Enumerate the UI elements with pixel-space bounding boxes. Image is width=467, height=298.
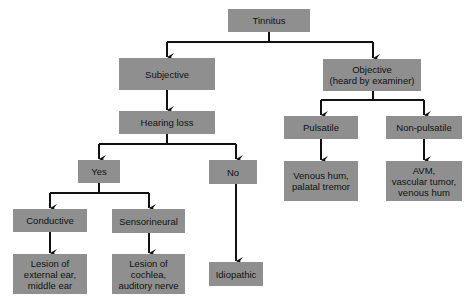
node-yes: Yes [78,160,120,183]
node-idiopathic: Idiopathic [209,262,263,286]
node-conductive-lesion: Lesion of external ear, middle ear [13,254,87,294]
node-sensorineural: Sensorineural [112,209,185,233]
node-tinnitus: Tinnitus [228,9,310,32]
node-non-pulsatile-causes: AVM, vascular tumor, venous hum [386,161,462,201]
node-hearing-loss: Hearing loss [119,111,215,134]
node-conductive: Conductive [13,209,87,232]
node-pulsatile: Pulsatile [284,116,358,139]
node-pulsatile-causes: Venous hum, palatal tremor [284,161,358,201]
node-no: No [209,160,257,184]
node-non-pulsatile: Non-pulsatile [386,116,462,139]
node-subjective: Subjective [119,58,215,90]
node-sensorineural-lesion: Lesion of cochlea, auditory nerve [112,254,185,294]
node-objective: Objective (heard by examiner) [323,59,421,91]
